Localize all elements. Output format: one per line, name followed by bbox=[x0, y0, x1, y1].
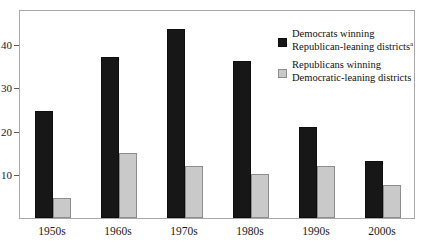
bar-1950s-series2 bbox=[53, 198, 71, 218]
y-axis-tick: 40 bbox=[0, 45, 19, 46]
x-axis-label-2000s: 2000s bbox=[349, 224, 415, 238]
bar-1970s-series1 bbox=[167, 29, 185, 218]
x-axis-label-1970s: 1970s bbox=[151, 224, 217, 238]
legend-label: Republicans winningDemocratic-leaning di… bbox=[292, 59, 411, 84]
bar-1960s-series1 bbox=[101, 57, 119, 218]
legend-swatch-dem bbox=[278, 38, 287, 47]
bar-2000s-series2 bbox=[383, 185, 401, 218]
x-axis-label-1980s: 1980s bbox=[217, 224, 283, 238]
legend-footnote-marker: a bbox=[410, 39, 413, 47]
legend-label-line2: Democratic-leaning districts bbox=[292, 72, 411, 85]
chart-legend: Democrats winningRepublican-leaning dist… bbox=[278, 28, 413, 90]
y-axis-tick: 20 bbox=[0, 132, 19, 133]
bar-1960s-series2 bbox=[119, 153, 137, 218]
y-axis-tick: 10 bbox=[0, 175, 19, 176]
x-axis-label-1990s: 1990s bbox=[283, 224, 349, 238]
bar-1980s-series2 bbox=[251, 174, 269, 218]
y-axis-tick-label: 20 bbox=[1, 124, 12, 140]
y-axis-tick-label: 40 bbox=[1, 37, 12, 53]
y-axis-tick-label: 30 bbox=[1, 80, 12, 96]
bar-1990s-series2 bbox=[317, 166, 335, 218]
x-axis-label-1960s: 1960s bbox=[85, 224, 151, 238]
y-axis-tick: 30 bbox=[0, 88, 19, 89]
legend-label: Democrats winningRepublican-leaning dist… bbox=[292, 28, 413, 53]
legend-label-line1: Democrats winning bbox=[292, 28, 413, 41]
legend-item-1: Democrats winningRepublican-leaning dist… bbox=[278, 28, 413, 53]
bar-chart: 10203040 Democrats winningRepublican-lea… bbox=[0, 0, 422, 252]
legend-item-2: Republicans winningDemocratic-leaning di… bbox=[278, 59, 413, 84]
bar-1950s-series1 bbox=[35, 111, 53, 218]
bar-1990s-series1 bbox=[299, 127, 317, 218]
legend-swatch-rep bbox=[278, 69, 287, 78]
bar-1970s-series2 bbox=[185, 166, 203, 218]
y-axis-tick-label: 10 bbox=[1, 167, 12, 183]
bar-1980s-series1 bbox=[233, 61, 251, 218]
plot-area: Democrats winningRepublican-leaning dist… bbox=[19, 10, 415, 219]
bar-2000s-series1 bbox=[365, 161, 383, 218]
legend-label-line2: Republican-leaning districtsa bbox=[292, 41, 413, 54]
legend-label-line1: Republicans winning bbox=[292, 59, 411, 72]
x-axis-label-1950s: 1950s bbox=[19, 224, 85, 238]
